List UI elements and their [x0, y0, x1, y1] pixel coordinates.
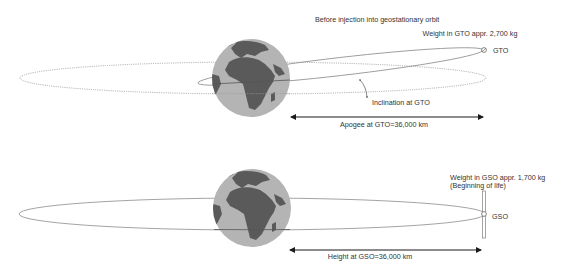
- earth-globe-top: [209, 39, 290, 117]
- inclination-arc-icon: [359, 79, 368, 98]
- orbit-diagram: Before injection into geostationary orbi…: [0, 0, 561, 269]
- top-panel: Before injection into geostationary orbi…: [20, 15, 517, 129]
- satellite-gso-icon: [482, 191, 487, 238]
- inclination-label: Inclination at GTO: [372, 98, 430, 107]
- top-title: Before injection into geostationary orbi…: [315, 15, 439, 24]
- gto-weight-label: Weight in GTO appr. 2,700 kg: [423, 29, 518, 38]
- earth-globe-bottom: [210, 169, 291, 247]
- satellite-gto-icon: [482, 48, 487, 53]
- gto-orbit-label: GTO: [493, 46, 509, 55]
- height-label: Height at GSO=36,000 km: [328, 252, 413, 261]
- gso-orbit-label: GSO: [492, 212, 508, 221]
- apogee-label: Apogee at GTO=36,000 km: [340, 120, 428, 129]
- bottom-panel: Weight in GSO appr. 1,700 kg (Beginning …: [19, 169, 545, 261]
- gso-weight-label-line2: (Beginning of life): [450, 181, 506, 190]
